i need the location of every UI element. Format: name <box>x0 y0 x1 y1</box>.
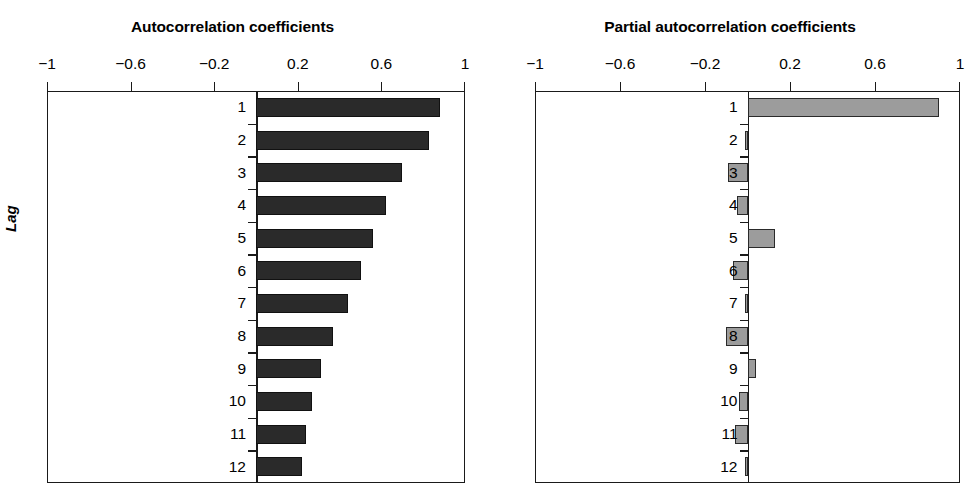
bar <box>745 131 748 150</box>
pacf-x-tick-label-5: 1 <box>956 55 965 73</box>
pacf-lag-tick-9 <box>740 418 748 419</box>
bar <box>745 457 748 476</box>
bar <box>256 457 302 476</box>
acf-x-tick-label-0: −1 <box>38 55 56 73</box>
acf-lag-label-10: 10 <box>204 392 246 410</box>
pacf-lag-tick-10 <box>740 450 748 451</box>
acf-x-tick-label-2: −0.2 <box>199 55 230 73</box>
acf-lag-label-11: 11 <box>204 425 246 443</box>
acf-lag-tick-3 <box>248 222 256 223</box>
pacf-lag-label-1: 1 <box>696 98 738 116</box>
pacf-lag-tick-5 <box>740 287 748 288</box>
acf-lag-label-7: 7 <box>204 294 246 312</box>
acf-x-tick-label-1: −0.6 <box>115 55 146 73</box>
pacf-lag-label-10: 10 <box>696 392 738 410</box>
bar <box>256 327 333 346</box>
pacf-lag-label-8: 8 <box>696 327 738 345</box>
bar <box>256 392 312 411</box>
acf-lag-label-8: 8 <box>204 327 246 345</box>
acf-x-tick-label-3: 0.2 <box>287 55 309 73</box>
pacf-panel: Partial autocorrelation coefficients −1−… <box>490 0 970 493</box>
pacf-lag-tick-0 <box>740 124 748 125</box>
acf-lag-label-9: 9 <box>204 360 246 378</box>
acf-lag-label-5: 5 <box>204 229 246 247</box>
acf-lag-tick-2 <box>248 189 256 190</box>
pacf-x-tick-label-4: 0.6 <box>864 55 886 73</box>
bar <box>737 196 748 215</box>
bar <box>256 98 440 117</box>
bar <box>748 98 939 117</box>
pacf-lag-label-2: 2 <box>696 131 738 149</box>
bar <box>748 229 776 248</box>
pacf-lag-label-5: 5 <box>696 229 738 247</box>
pacf-lag-label-6: 6 <box>696 262 738 280</box>
bar <box>256 261 361 280</box>
bar <box>745 294 748 313</box>
acf-panel: Autocorrelation coefficients −1−0.6−0.20… <box>0 0 490 493</box>
pacf-lag-label-9: 9 <box>696 360 738 378</box>
pacf-x-tick-label-1: −0.6 <box>605 55 636 73</box>
bar <box>256 131 429 150</box>
pacf-lag-tick-6 <box>740 320 748 321</box>
pacf-zero-line <box>748 91 750 483</box>
bar <box>256 425 306 444</box>
pacf-x-tick-label-3: 0.2 <box>779 55 801 73</box>
bar <box>256 294 348 313</box>
acf-x-tick-label-5: 1 <box>461 55 470 73</box>
acf-lag-label-12: 12 <box>204 458 246 476</box>
pacf-lag-tick-2 <box>740 189 748 190</box>
pacf-lag-label-7: 7 <box>696 294 738 312</box>
pacf-lag-label-3: 3 <box>696 164 738 182</box>
bar <box>748 359 757 378</box>
acf-lag-label-2: 2 <box>204 131 246 149</box>
pacf-lag-tick-4 <box>740 254 748 255</box>
pacf-x-tick-label-0: −1 <box>526 55 544 73</box>
acf-lag-tick-5 <box>248 287 256 288</box>
pacf-lag-tick-8 <box>740 385 748 386</box>
pacf-lag-label-11: 11 <box>696 425 738 443</box>
pacf-lag-tick-3 <box>740 222 748 223</box>
acf-lag-tick-0 <box>248 124 256 125</box>
pacf-lag-label-4: 4 <box>696 196 738 214</box>
acf-x-tick-label-4: 0.6 <box>371 55 393 73</box>
acf-lag-tick-6 <box>248 320 256 321</box>
pacf-lag-label-12: 12 <box>696 458 738 476</box>
bar <box>256 359 321 378</box>
acf-lag-tick-1 <box>248 156 256 157</box>
acf-lag-tick-7 <box>248 352 256 353</box>
pacf-x-tick-label-2: −0.2 <box>690 55 721 73</box>
acf-lag-label-1: 1 <box>204 98 246 116</box>
acf-lag-tick-9 <box>248 418 256 419</box>
bar <box>256 196 386 215</box>
pacf-lag-tick-7 <box>740 352 748 353</box>
acf-lag-label-4: 4 <box>204 196 246 214</box>
bar <box>739 392 748 411</box>
pacf-panel-title: Partial autocorrelation coefficients <box>490 18 970 36</box>
acf-panel-title: Autocorrelation coefficients <box>0 18 465 36</box>
acf-lag-label-3: 3 <box>204 164 246 182</box>
pacf-lag-tick-1 <box>740 156 748 157</box>
bar <box>256 163 402 182</box>
acf-lag-tick-8 <box>248 385 256 386</box>
acf-lag-tick-4 <box>248 254 256 255</box>
acf-lag-label-6: 6 <box>204 262 246 280</box>
acf-lag-tick-10 <box>248 450 256 451</box>
bar <box>256 229 373 248</box>
